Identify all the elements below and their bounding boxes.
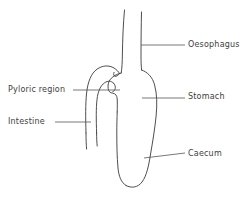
caecum-left-outline — [117, 112, 126, 186]
oesophagus-left-wall — [121, 10, 124, 73]
label-pyloric-region: Pyloric region — [8, 86, 65, 94]
label-oesophagus: Oesophagus — [188, 41, 240, 49]
intestine-outer-wall — [86, 133, 87, 149]
label-caecum: Caecum — [188, 150, 222, 158]
stomach-left-wall — [108, 73, 121, 112]
anatomy-drawing — [0, 0, 245, 202]
oesophagus-right-wall — [141, 12, 142, 70]
intestine-inner-wall — [97, 133, 98, 146]
label-stomach: Stomach — [188, 93, 225, 101]
stomach-caecum-right-outline — [126, 70, 157, 187]
label-intestine: Intestine — [8, 118, 45, 126]
digestive-tract-figure: Oesophagus Stomach Caecum Pyloric region… — [0, 0, 245, 202]
pyloric-inner-curve — [96, 81, 113, 133]
